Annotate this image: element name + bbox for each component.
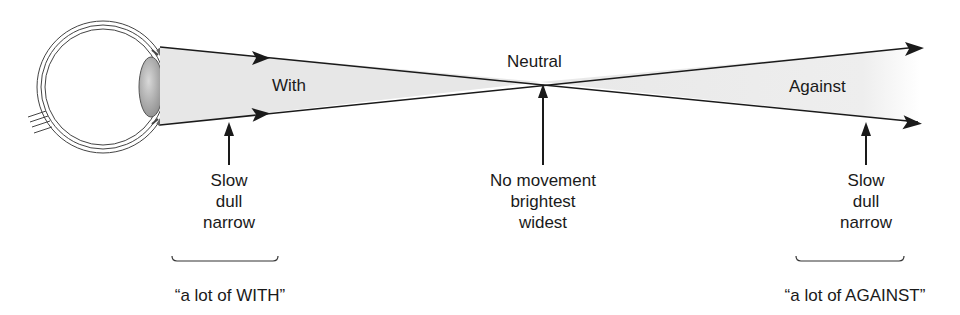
right-annotation: Slow dull narrow: [816, 170, 916, 233]
left-annotation-line-1: Slow: [179, 170, 279, 191]
neutral-label: Neutral: [507, 52, 562, 72]
caption-right: “a lot of AGAINST”: [760, 285, 950, 306]
with-label: With: [272, 76, 306, 96]
bracket-left: [172, 256, 278, 261]
center-annotation-line-1: No movement: [463, 170, 623, 191]
against-label: Against: [789, 77, 846, 97]
center-annotation-line-2: brightest: [463, 191, 623, 212]
eye-light-diagram: [0, 0, 960, 315]
left-annotation: Slow dull narrow: [179, 170, 279, 233]
left-annotation-line-3: narrow: [179, 212, 279, 233]
lens-icon: [139, 57, 163, 117]
right-annotation-line-3: narrow: [816, 212, 916, 233]
right-annotation-line-2: dull: [816, 191, 916, 212]
pointer-arrow-icon: [861, 122, 871, 136]
right-annotation-line-1: Slow: [816, 170, 916, 191]
center-annotation: No movement brightest widest: [463, 170, 623, 233]
bracket-right: [796, 256, 904, 261]
with-beam: [160, 47, 540, 125]
against-beam: [540, 47, 920, 122]
caption-left: “a lot of WITH”: [145, 285, 315, 306]
left-annotation-line-2: dull: [179, 191, 279, 212]
pointer-arrow-icon: [224, 122, 234, 136]
center-annotation-line-3: widest: [463, 212, 623, 233]
